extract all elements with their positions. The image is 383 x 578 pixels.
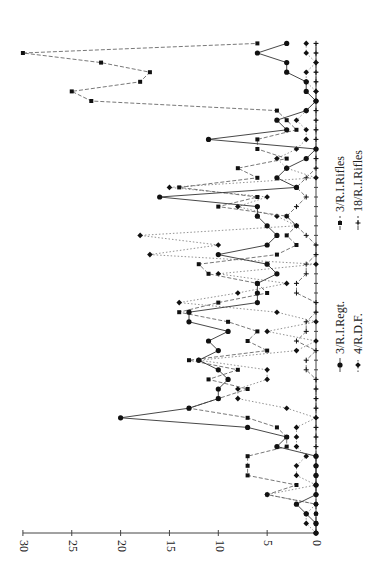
diamond-marker [313, 338, 319, 344]
square-marker [89, 99, 93, 103]
diamond-marker [216, 242, 222, 248]
diamond-marker [303, 137, 309, 143]
circle-marker [304, 79, 309, 84]
square-marker [207, 272, 211, 276]
circle-marker [216, 396, 221, 401]
circle-marker [313, 482, 318, 487]
circle-marker [304, 89, 309, 94]
circle-marker [313, 530, 318, 535]
value-tick-label: 15 [164, 540, 178, 552]
circle-marker [294, 185, 299, 190]
square-marker [294, 483, 298, 487]
series-4-r-d-f- [137, 41, 318, 536]
square-marker [246, 416, 250, 420]
square-marker [314, 502, 318, 506]
circle-marker [118, 415, 123, 420]
series-line [287, 43, 316, 533]
circle-marker [225, 329, 230, 334]
series-3-r-i-regt- [118, 41, 319, 536]
square-marker [138, 80, 142, 84]
circle-marker [245, 425, 250, 430]
diamond-marker [274, 213, 280, 219]
diamond-marker [235, 290, 241, 296]
square-marker [207, 377, 211, 381]
square-marker [294, 243, 298, 247]
square-marker [177, 185, 181, 189]
value-tick-label: 25 [66, 540, 80, 552]
square-marker [246, 454, 250, 458]
circle-marker [284, 127, 289, 132]
circle-marker [255, 300, 260, 305]
square-marker [255, 176, 259, 180]
value-tick-label: 20 [115, 540, 129, 552]
circle-marker [216, 367, 221, 372]
square-marker [255, 195, 259, 199]
diamond-marker [264, 194, 270, 200]
circle-marker [274, 175, 279, 180]
square-marker [275, 253, 279, 257]
circle-marker [313, 473, 318, 478]
circle-marker [186, 310, 191, 315]
diamond-marker [147, 252, 153, 258]
circle-marker [186, 319, 191, 324]
square-marker [236, 368, 240, 372]
line-chart: 051015202530 3/R.I.Regt.3/R.I.Rifles4/R.… [0, 0, 383, 578]
circle-marker [157, 194, 162, 199]
series-line [121, 43, 316, 533]
circle-marker [274, 118, 279, 123]
circle-marker [274, 271, 279, 276]
legend-item: 18/R.I.Rifles [351, 150, 365, 230]
square-marker [255, 329, 259, 333]
square-marker [265, 291, 269, 295]
diamond-marker [313, 319, 319, 325]
square-marker [236, 166, 240, 170]
series-group [21, 41, 319, 536]
square-marker [246, 387, 250, 391]
square-marker [255, 137, 259, 141]
square-marker [255, 41, 259, 45]
diamond-marker [355, 362, 361, 368]
value-tick-label: 30 [17, 540, 31, 552]
square-marker [99, 61, 103, 65]
circle-marker [206, 137, 211, 142]
square-marker [70, 89, 74, 93]
diamond-marker [294, 348, 300, 354]
circle-marker [255, 204, 260, 209]
square-marker [275, 109, 279, 113]
circle-marker [337, 362, 342, 367]
diamond-marker [294, 473, 300, 479]
legend-label: 4/R.D.F. [351, 313, 365, 354]
square-marker [216, 205, 220, 209]
square-marker [226, 320, 230, 324]
circle-marker [255, 50, 260, 55]
circle-marker [274, 233, 279, 238]
square-marker [265, 349, 269, 353]
circle-marker [186, 406, 191, 411]
circle-marker [313, 463, 318, 468]
diamond-marker [313, 415, 319, 421]
circle-marker [265, 262, 270, 267]
diamond-marker [294, 434, 300, 440]
square-marker [246, 473, 250, 477]
diamond-marker [264, 367, 270, 373]
series-3-r-i-rifles [21, 41, 318, 535]
square-marker [255, 147, 259, 151]
diamond-marker [137, 233, 143, 239]
diamond-marker [284, 405, 290, 411]
circle-marker [225, 377, 230, 382]
diamond-marker [313, 89, 319, 95]
diamond-marker [303, 50, 309, 56]
circle-marker [284, 70, 289, 75]
diamond-marker [235, 396, 241, 402]
circle-marker [216, 386, 221, 391]
diamond-marker [313, 175, 319, 181]
circle-marker [294, 502, 299, 507]
square-marker [275, 425, 279, 429]
legend-label: 18/R.I.Rifles [351, 150, 365, 212]
diamond-marker [264, 377, 270, 383]
square-marker [314, 512, 318, 516]
square-marker [265, 493, 269, 497]
square-marker [285, 157, 289, 161]
square-marker [21, 51, 25, 55]
circle-marker [313, 146, 318, 151]
